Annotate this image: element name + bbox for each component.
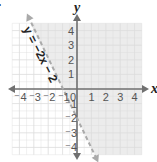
y-tick-label: ⁻3 [65,127,77,139]
x-tick-label: 2 [103,91,109,103]
x-tick-label: 1 [88,91,94,103]
x-axis-right-arrow-icon [142,85,149,93]
inequality-graph: . ⁻4⁻3⁻2⁻101234 4321⁻1⁻2⁻3⁻4 x y y = −2x… [0,0,157,162]
x-axis-label: x [150,81,157,96]
problem-label: . [0,0,1,9]
y-tick-label: ⁻4 [65,141,77,153]
x-tick-label: ⁻2 [43,91,55,103]
y-tick-label: ⁻2 [65,112,77,124]
x-tick-label: 3 [117,91,123,103]
y-tick-label: 3 [68,39,74,51]
x-tick-label: ⁻4 [14,91,26,103]
y-axis-label: y [72,0,81,15]
y-tick-label: 4 [68,25,74,37]
y-tick-label: ⁻1 [65,98,77,110]
boundary-arrow-top-icon [26,14,33,22]
y-tick-label: 2 [68,54,74,66]
y-axis-down-arrow-icon [73,153,81,160]
x-tick-label: ⁻3 [29,91,41,103]
y-axis-up-arrow-icon [73,14,81,21]
x-tick-label: 4 [132,91,138,103]
y-tick-label: 1 [68,68,74,80]
